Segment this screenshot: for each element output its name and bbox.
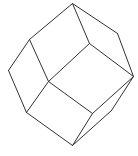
edge-left-lower_left xyxy=(9,71,27,113)
edge-right_lower-bottom xyxy=(73,111,112,146)
edge-upper_left-left xyxy=(9,40,30,71)
edge-inner_top-center xyxy=(49,44,90,82)
edge-center-lower_left xyxy=(27,82,49,113)
edge-top-upper_left xyxy=(30,4,73,40)
edge-inner_lower_right-bottom xyxy=(73,114,93,146)
polyhedron-drawing xyxy=(0,0,138,156)
edge-lower_left-bottom xyxy=(27,113,73,146)
edge-upper_left-center xyxy=(30,40,49,82)
edge-center-inner_lower_right xyxy=(49,82,93,114)
